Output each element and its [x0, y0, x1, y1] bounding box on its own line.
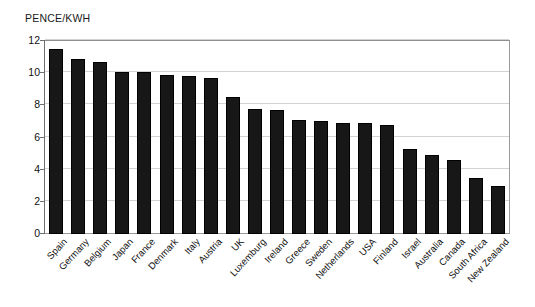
- bar: [160, 75, 174, 234]
- y-tick-mark: [40, 40, 44, 41]
- bar-slot: [222, 41, 244, 234]
- y-tick-label: 10: [8, 66, 40, 78]
- y-tick-label: 4: [8, 163, 40, 175]
- bar-slot: [155, 41, 177, 234]
- bar: [469, 178, 483, 234]
- bar-slot: [178, 41, 200, 234]
- y-tick-mark: [40, 201, 44, 202]
- bar-slot: [310, 41, 332, 234]
- bar-slot: [244, 41, 266, 234]
- bar: [270, 110, 284, 234]
- bar: [358, 123, 372, 234]
- y-tick-label: 2: [8, 195, 40, 207]
- y-axis-ticks: 024681012: [0, 40, 40, 234]
- bar: [49, 49, 63, 234]
- bar-slot: [266, 41, 288, 234]
- y-tick-label: 8: [8, 98, 40, 110]
- bar-slot: [465, 41, 487, 234]
- y-axis-title: PENCE/KWH: [25, 12, 90, 24]
- y-tick-mark: [40, 72, 44, 73]
- bar: [226, 97, 240, 234]
- y-tick-label: 12: [8, 34, 40, 46]
- bar-series: [45, 41, 509, 234]
- bar-slot: [399, 41, 421, 234]
- bar: [248, 109, 262, 234]
- bar-slot: [443, 41, 465, 234]
- bar: [115, 72, 129, 234]
- bar: [447, 160, 461, 234]
- y-tick-mark: [40, 169, 44, 170]
- bar-slot: [45, 41, 67, 234]
- bar-slot: [89, 41, 111, 234]
- bar: [204, 78, 218, 234]
- bar-slot: [288, 41, 310, 234]
- bar-slot: [200, 41, 222, 234]
- bar-slot: [487, 41, 509, 234]
- bar: [314, 121, 328, 234]
- bar: [71, 59, 85, 234]
- bar: [403, 149, 417, 234]
- bar: [491, 186, 505, 234]
- bar-slot: [67, 41, 89, 234]
- x-axis-labels: SpainGermanyBelgiumJapanFranceDenmarkIta…: [45, 236, 509, 306]
- bar-slot: [354, 41, 376, 234]
- bar-chart: PENCE/KWH 024681012 SpainGermanyBelgiumJ…: [0, 0, 535, 307]
- y-tick-label: 0: [8, 227, 40, 239]
- bar-slot: [421, 41, 443, 234]
- bar-slot: [376, 41, 398, 234]
- bar: [425, 155, 439, 234]
- bar: [292, 120, 306, 234]
- bar: [336, 123, 350, 234]
- bar: [137, 72, 151, 234]
- y-tick-mark: [40, 104, 44, 105]
- y-tick-mark: [40, 233, 44, 234]
- gridline: [45, 39, 509, 40]
- y-tick-mark: [40, 137, 44, 138]
- bar-slot: [332, 41, 354, 234]
- bar: [93, 62, 107, 234]
- bar-slot: [133, 41, 155, 234]
- bar: [182, 76, 196, 234]
- bar-slot: [111, 41, 133, 234]
- y-tick-label: 6: [8, 131, 40, 143]
- x-tick-label: UK: [229, 236, 246, 253]
- x-tick-label: Austria: [196, 236, 224, 265]
- bar: [380, 125, 394, 234]
